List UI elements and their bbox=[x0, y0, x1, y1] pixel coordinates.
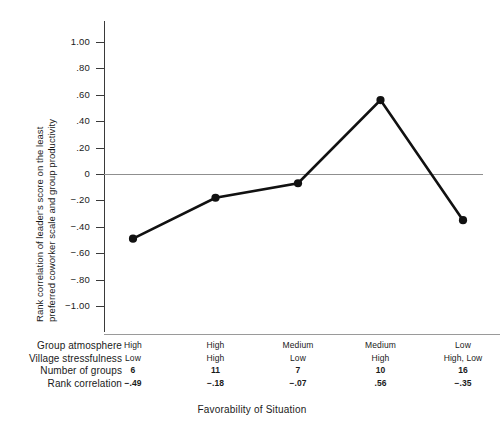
table-cell: High bbox=[178, 353, 254, 363]
table-cell: 16 bbox=[425, 365, 501, 375]
table-cell: Medium bbox=[343, 340, 419, 350]
table-cell: High bbox=[178, 340, 254, 350]
table-cell: .56 bbox=[343, 378, 419, 388]
table-row: Number of groups61171016 bbox=[0, 365, 504, 378]
table-cell: 7 bbox=[260, 365, 336, 375]
table-top-rule bbox=[104, 334, 500, 335]
table-row: Rank correlation−.49−.18−.07.56−.35 bbox=[0, 378, 504, 391]
x-axis-title: Favorability of Situation bbox=[0, 404, 504, 415]
data-point-marker bbox=[459, 216, 467, 224]
table-cell: 10 bbox=[343, 365, 419, 375]
data-table: Group atmosphereHighHighMediumMediumLowV… bbox=[0, 340, 504, 390]
table-cell: −.49 bbox=[95, 378, 171, 388]
data-point-marker bbox=[376, 96, 384, 104]
data-point-marker bbox=[294, 179, 302, 187]
data-point-marker bbox=[211, 194, 219, 202]
table-cell: −.35 bbox=[425, 378, 501, 388]
table-cell: −.18 bbox=[178, 378, 254, 388]
table-cell: Low bbox=[260, 353, 336, 363]
table-cell: 6 bbox=[95, 365, 171, 375]
table-row: Village stressfulnessLowHighLowHighHigh,… bbox=[0, 353, 504, 366]
table-cell: −.07 bbox=[260, 378, 336, 388]
table-cell: Low bbox=[95, 353, 171, 363]
table-row: Group atmosphereHighHighMediumMediumLow bbox=[0, 340, 504, 353]
data-point-marker bbox=[129, 235, 137, 243]
series-polyline bbox=[133, 100, 463, 239]
table-cell: High bbox=[95, 340, 171, 350]
table-cell: 11 bbox=[178, 365, 254, 375]
chart-figure: Rank correlation of leader's score on th… bbox=[0, 0, 504, 436]
table-cell: High bbox=[343, 353, 419, 363]
table-cell: Medium bbox=[260, 340, 336, 350]
table-cell: Low bbox=[425, 340, 501, 350]
table-cell: High, Low bbox=[425, 353, 501, 363]
